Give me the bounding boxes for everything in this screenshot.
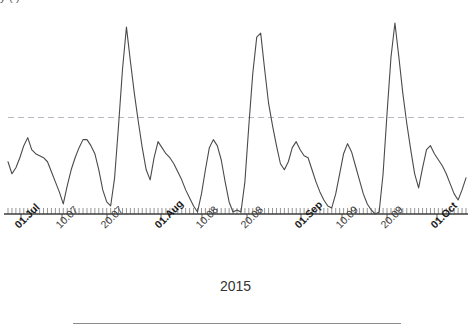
series-line-daily-value — [8, 23, 466, 214]
x-axis-title: 2015 — [0, 278, 471, 294]
x-tick-labels: 01.Jul10.0720.0701.Aug10.0820.0801.Sep10… — [0, 222, 471, 282]
footer-rule — [73, 323, 401, 324]
plot-svg — [0, 0, 471, 222]
plot-area — [0, 0, 471, 222]
chart-figure: y ( ) 01.Jul10.0720.0701.Aug10.0820.0801… — [0, 0, 471, 330]
axis-major-ticks — [21, 214, 437, 221]
